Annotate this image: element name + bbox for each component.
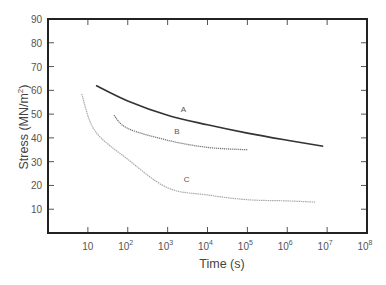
y-axis-title-text: Stress (MN/m [17,93,31,169]
y-tick-label: 40 [31,133,43,144]
y-tick-label: 30 [31,157,43,168]
y-tick-label: 20 [31,180,43,191]
x-tick-label: 103 [158,239,173,252]
y-axis-ticks: 102030405060708090 [31,14,367,215]
curve-label-a: A [181,105,187,114]
y-axis-title: Stress (MN/m2) [16,84,31,169]
x-axis-ticks: 10102103104105106107108 [82,19,372,252]
x-tick-label: 102 [118,239,133,252]
y-tick-label: 90 [31,14,43,25]
creep-stress-time-chart: 10102103104105106107108 1020304050607080… [0,0,386,285]
x-tick-label: 107 [318,239,333,252]
y-tick-label: 10 [31,204,43,215]
curve-label-b: B [174,127,179,136]
curve-label-c: C [184,175,190,184]
y-tick-label: 80 [31,38,43,49]
x-tick-label: 105 [238,239,253,252]
x-axis-title: Time (s) [199,257,244,271]
curves: ABC [82,86,324,203]
curve-c [82,94,315,202]
curve-b [114,115,247,149]
y-axis-title-close: ) [17,84,31,88]
plot-frame [48,19,367,233]
y-tick-label: 50 [31,109,43,120]
y-tick-label: 60 [31,85,43,96]
x-tick-label: 104 [198,239,213,252]
y-tick-label: 70 [31,62,43,73]
x-tick-label: 108 [357,239,372,252]
x-tick-label: 10 [82,241,94,252]
x-tick-label: 106 [278,239,293,252]
curve-a [96,86,323,147]
